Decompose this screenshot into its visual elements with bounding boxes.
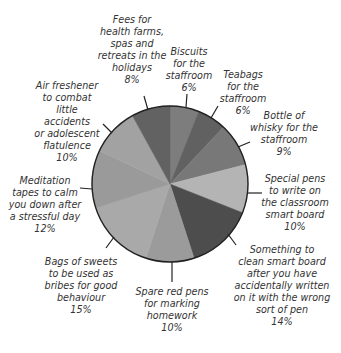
slice-label: Spare red pens for marking homework 10% [132, 286, 212, 334]
slice-label: Bottle of whisky for the staffroom 9% [248, 110, 320, 158]
slice-label: Special pens to write on the classroom s… [255, 173, 335, 233]
leader-line [103, 124, 112, 133]
slice-label: Air freshener to combat little accidents… [32, 80, 102, 164]
slice-label: Meditation tapes to calm you down after … [4, 175, 86, 235]
slice-label: Something to clean smart board after you… [226, 244, 338, 328]
slice-label: Bags of sweets to be used as bribes for … [38, 256, 124, 316]
leader-line [144, 96, 148, 110]
leader-line [186, 94, 187, 107]
pie-slices [92, 106, 248, 262]
slice-label: Fees for health farms, spas and retreats… [96, 14, 168, 86]
leader-line [106, 237, 114, 248]
